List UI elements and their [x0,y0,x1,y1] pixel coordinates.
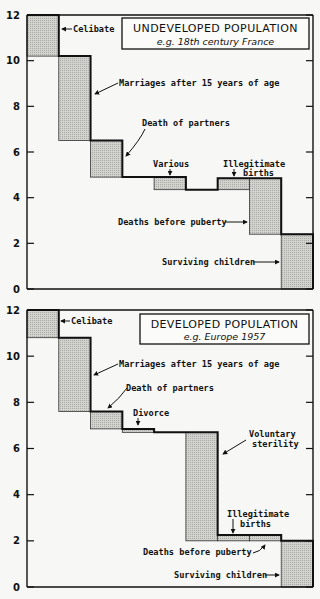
arrow-icon [108,388,127,408]
label-death-partners: Death of partners [126,383,214,393]
step-bar [249,178,281,234]
label-surviving: Surviving children [174,570,267,580]
label-illegitimate: Illegitimate [227,509,289,519]
panel-undeveloped: 024681012 UNDEVELOPED POPULATION e.g. 18… [6,10,313,295]
label-surviving: Surviving children [162,257,255,267]
tick-label: 10 [6,351,20,362]
step-bar [218,178,250,189]
step-bar [59,338,91,412]
tick-label: 0 [13,582,20,593]
arrow-icon [94,364,118,375]
tick-label: 4 [13,489,20,500]
tick-label: 0 [13,284,20,295]
chart-svg: 024681012 UNDEVELOPED POPULATION e.g. 18… [0,0,320,599]
step-bar [281,541,313,587]
tick-label: 12 [6,10,20,21]
tick-label: 2 [13,535,20,546]
step-bar [91,141,123,178]
tick-label: 8 [13,397,20,408]
tick-label: 4 [13,192,20,203]
arrow-icon [95,83,118,94]
arrow-icon [253,545,265,553]
step-bar [281,234,313,289]
step-bar [27,310,59,338]
label-marriages: Marriages after 15 years of age [119,359,279,369]
tick-label: 10 [6,55,20,66]
label-deaths-puberty: Deaths before puberty [118,217,227,227]
tick-label: 12 [6,305,20,316]
panel-developed: 024681012 DEVELOPED POPULATION e.g. Euro… [6,305,313,593]
label-divorce: Divorce [133,408,169,418]
label-sterility: sterility [252,439,299,449]
chart-subtitle: e.g. Europe 1957 [184,331,266,342]
label-celibate: Celibate [71,316,112,326]
arrow-icon [223,440,246,454]
label-births: births [240,519,271,529]
step-bar [27,15,59,56]
label-births: births [243,168,274,178]
label-various: Various [153,159,189,169]
step-line [27,15,313,289]
step-bar [154,177,186,190]
label-voluntary: Voluntary [249,429,296,439]
tick-label: 8 [13,101,20,112]
tick-label: 6 [13,443,20,454]
tick-label: 2 [13,238,20,249]
label-celibate: Celibate [73,24,114,34]
chart-subtitle: e.g. 18th century France [157,36,275,47]
chart-title: UNDEVELOPED POPULATION [133,22,298,35]
arrow-icon [126,129,145,156]
step-bar [59,56,91,140]
figure: 024681012 UNDEVELOPED POPULATION e.g. 18… [0,0,320,599]
step-bar [91,412,123,429]
label-marriages: Marriages after 15 years of age [119,78,279,88]
step-bar [186,432,218,540]
chart-title: DEVELOPED POPULATION [151,318,299,331]
label-death-partners: Death of partners [142,118,230,128]
tick-label: 6 [13,147,20,158]
label-deaths-puberty: Deaths before puberty [143,547,252,557]
